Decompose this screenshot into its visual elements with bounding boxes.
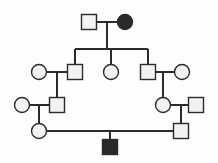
connection-layer — [30, 22, 189, 140]
gen1-female-affected[interactable] — [118, 15, 133, 30]
gen4-male-right[interactable] — [174, 124, 189, 139]
gen3-male-spouse-right[interactable] — [189, 98, 204, 113]
pedigree-canvas — [0, 0, 218, 163]
gen3-female-child-right[interactable] — [156, 98, 171, 113]
pedigree-chart: Four-generation pedigree: squares are ma… — [0, 0, 218, 163]
gen2-male-child-right[interactable] — [141, 65, 156, 80]
proband-male-affected[interactable] — [103, 140, 118, 155]
gen4-female-left[interactable] — [32, 124, 47, 139]
gen2-female-spouse-left[interactable] — [32, 65, 47, 80]
symbol-layer — [15, 15, 204, 155]
gen2-male-child-left[interactable] — [68, 65, 83, 80]
gen3-male-child-left[interactable] — [50, 98, 65, 113]
gen2-female-child-middle[interactable] — [104, 65, 119, 80]
gen1-male-unaffected[interactable] — [82, 15, 97, 30]
gen2-female-spouse-right[interactable] — [175, 65, 190, 80]
gen3-female-spouse-left[interactable] — [15, 98, 30, 113]
